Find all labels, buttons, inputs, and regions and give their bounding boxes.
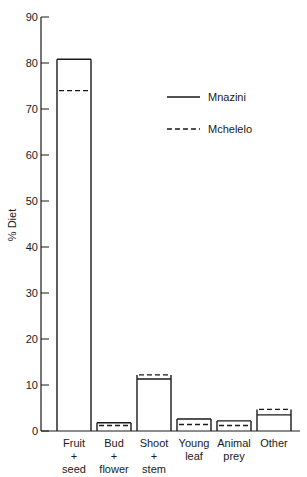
y-tick-label: 30	[26, 287, 38, 299]
y-tick-label: 20	[26, 333, 38, 345]
bar-group	[97, 423, 131, 431]
category-label: Other	[260, 437, 288, 449]
y-tick-label: 80	[26, 57, 38, 69]
category-label: Bud	[104, 437, 124, 449]
diet-bar-chart: 0102030405060708090 Fruit+seedBud+flower…	[0, 0, 307, 477]
category-label: Fruit	[63, 437, 85, 449]
category-label: prey	[223, 450, 245, 462]
bar-group	[217, 421, 251, 431]
category-label: Shoot	[140, 437, 169, 449]
bars	[57, 59, 291, 431]
y-axis-title: % Diet	[6, 209, 18, 241]
category-label: +	[151, 450, 157, 462]
y-tick-label: 70	[26, 103, 38, 115]
x-axis-labels: Fruit+seedBud+flowerShoot+stemYoungleafA…	[62, 437, 288, 475]
category-label: seed	[62, 463, 86, 475]
legend-label: Mnazini	[208, 91, 246, 103]
category-label: leaf	[185, 450, 204, 462]
y-tick-label: 60	[26, 149, 38, 161]
bar-group	[257, 409, 291, 431]
category-label: +	[71, 450, 77, 462]
y-tick-label: 10	[26, 379, 38, 391]
category-label: flower	[99, 463, 129, 475]
legend: MnaziniMchelelo	[167, 91, 252, 135]
y-axis: 0102030405060708090	[26, 11, 300, 437]
category-label: Young	[179, 437, 210, 449]
bar-group	[177, 419, 211, 431]
y-tick-label: 90	[26, 11, 38, 23]
category-label: stem	[142, 463, 166, 475]
bar-group	[137, 375, 171, 431]
bar-group	[57, 59, 91, 431]
category-label: +	[111, 450, 117, 462]
category-label: Animal	[217, 437, 251, 449]
legend-label: Mchelelo	[208, 123, 252, 135]
y-tick-label: 50	[26, 195, 38, 207]
y-tick-label: 40	[26, 241, 38, 253]
y-tick-label: 0	[32, 425, 38, 437]
